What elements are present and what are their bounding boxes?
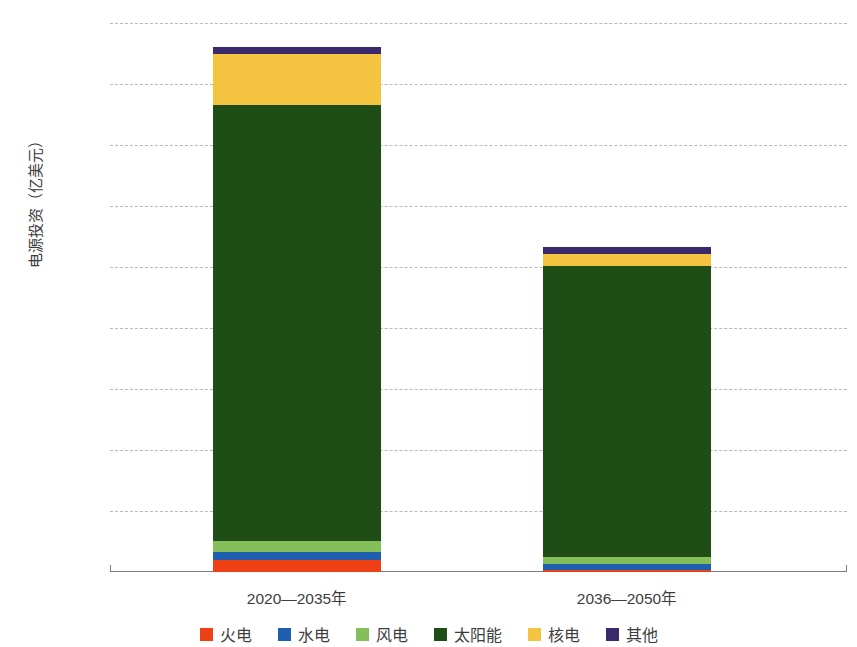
legend-item-风电[interactable]: 风电: [356, 622, 408, 646]
bar-2[interactable]: [543, 247, 711, 572]
legend-label: 核电: [548, 622, 580, 646]
bar-segment-风电[interactable]: [213, 541, 381, 552]
chart-legend: 火电水电风电太阳能核电其他: [0, 622, 857, 646]
legend-label: 太阳能: [454, 622, 502, 646]
legend-label: 风电: [376, 622, 408, 646]
legend-swatch-icon: [528, 628, 541, 641]
bar-segment-太阳能[interactable]: [543, 266, 711, 557]
y-axis-title: 电源投资（亿美元）: [24, 71, 45, 331]
legend-label: 其他: [626, 622, 658, 646]
gridline: [110, 23, 847, 24]
bar-segment-风电[interactable]: [543, 557, 711, 564]
legend-swatch-icon: [606, 628, 619, 641]
bar-segment-火电[interactable]: [213, 560, 381, 572]
stacked-bar-chart: 电源投资（亿美元） 020004000600080001000012000140…: [0, 0, 857, 647]
axis-tick-mark: [846, 565, 847, 572]
legend-item-太阳能[interactable]: 太阳能: [434, 622, 502, 646]
bar-segment-太阳能[interactable]: [213, 105, 381, 541]
bar-segment-核电[interactable]: [213, 54, 381, 106]
bar-segment-水电[interactable]: [213, 552, 381, 560]
bar-segment-火电[interactable]: [543, 570, 711, 572]
bar-1[interactable]: [213, 47, 381, 572]
legend-swatch-icon: [200, 628, 213, 641]
plot-area: 0200040006000800010000120001400016000180…: [110, 23, 847, 572]
legend-item-核电[interactable]: 核电: [528, 622, 580, 646]
legend-swatch-icon: [356, 628, 369, 641]
legend-label: 火电: [220, 622, 252, 646]
legend-item-火电[interactable]: 火电: [200, 622, 252, 646]
legend-item-其他[interactable]: 其他: [606, 622, 658, 646]
x-axis-label-2: 2036—2050年: [507, 586, 747, 608]
bar-segment-核电[interactable]: [543, 254, 711, 267]
legend-swatch-icon: [434, 628, 447, 641]
legend-label: 水电: [298, 622, 330, 646]
axis-tick-mark: [110, 565, 111, 572]
x-axis-label-1: 2020—2035年: [177, 586, 417, 608]
legend-swatch-icon: [278, 628, 291, 641]
legend-item-水电[interactable]: 水电: [278, 622, 330, 646]
